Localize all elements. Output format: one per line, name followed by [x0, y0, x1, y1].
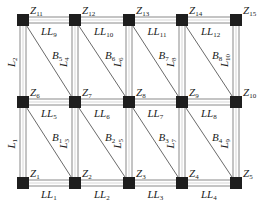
- node-label-Z1: Z1: [30, 167, 40, 181]
- node-label-Z10: Z10: [243, 86, 257, 100]
- beam-label-12: LL12: [200, 25, 221, 39]
- node-label-Z3: Z3: [136, 167, 146, 181]
- node-Z10: [230, 96, 242, 108]
- node-label-Z2: Z2: [82, 167, 92, 181]
- beam-label-9: LL9: [40, 25, 57, 39]
- node-Z7: [69, 96, 81, 108]
- node-label-Z5: Z5: [243, 167, 253, 181]
- beam-label-8: LL8: [200, 107, 217, 121]
- node-label-Z15: Z15: [243, 4, 257, 18]
- beam-label-11: LL11: [147, 25, 167, 39]
- beam-label-3: LL3: [147, 188, 164, 202]
- node-Z1: [17, 177, 29, 189]
- node-Z14: [176, 14, 188, 26]
- node-label-Z6: Z6: [30, 86, 40, 100]
- column-label-1: L1: [5, 138, 19, 149]
- node-Z5: [230, 177, 242, 189]
- beam-label-4: LL4: [200, 188, 217, 202]
- node-label-Z4: Z4: [189, 167, 199, 181]
- node-Z6: [17, 96, 29, 108]
- node-Z12: [69, 14, 81, 26]
- node-label-Z11: Z11: [30, 4, 43, 18]
- beam-label-5: LL5: [40, 107, 57, 121]
- column-label-2: L2: [5, 57, 19, 68]
- node-Z15: [230, 14, 242, 26]
- node-Z9: [176, 96, 188, 108]
- node-Z4: [176, 177, 188, 189]
- node-label-Z12: Z12: [82, 4, 96, 18]
- node-label-Z13: Z13: [136, 4, 150, 18]
- node-Z8: [123, 96, 135, 108]
- beam-label-1: LL1: [40, 188, 57, 202]
- beam-label-7: LL7: [147, 107, 164, 121]
- node-Z13: [123, 14, 135, 26]
- node-Z3: [123, 177, 135, 189]
- node-label-Z8: Z8: [136, 86, 146, 100]
- beam-label-2: LL2: [93, 188, 110, 202]
- frame-diagram: B1B2B3B4B5B6B7B8L1L3L5L7L9L2L4L6L8L10LL1…: [0, 0, 257, 205]
- node-label-Z9: Z9: [189, 86, 199, 100]
- node-Z11: [17, 14, 29, 26]
- node-label-Z14: Z14: [189, 4, 203, 18]
- beam-label-10: LL10: [93, 25, 114, 39]
- beam-label-6: LL6: [93, 107, 110, 121]
- node-Z2: [69, 177, 81, 189]
- node-label-Z7: Z7: [82, 86, 92, 100]
